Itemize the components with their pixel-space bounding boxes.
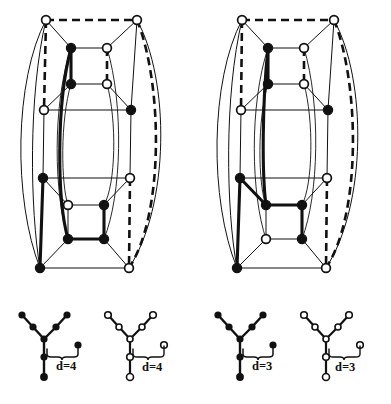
node-open bbox=[103, 44, 112, 53]
right-graph-nodes bbox=[232, 16, 338, 273]
node-dark bbox=[214, 311, 221, 318]
node-dark bbox=[66, 79, 75, 88]
left-graph-nodes bbox=[35, 16, 141, 273]
node-dark bbox=[259, 311, 266, 318]
node-open bbox=[323, 374, 330, 381]
tree-dark-d3-label: d=3 bbox=[252, 359, 272, 373]
tree-dark-d3: d=3 bbox=[214, 311, 276, 381]
node-open bbox=[300, 44, 309, 53]
node-dark bbox=[235, 173, 244, 182]
node-dark bbox=[40, 373, 48, 381]
node-open bbox=[133, 16, 142, 25]
node-dark bbox=[18, 311, 25, 318]
node-dark bbox=[225, 323, 232, 330]
node-dark bbox=[99, 234, 108, 243]
node-open bbox=[125, 264, 134, 273]
node-open bbox=[116, 324, 122, 330]
right-polyhedral-graph bbox=[217, 16, 358, 273]
node-open bbox=[237, 106, 246, 115]
tree-open-d4-brace bbox=[133, 346, 164, 360]
node-open bbox=[323, 336, 329, 342]
node-open bbox=[127, 374, 134, 381]
node-dark bbox=[248, 323, 255, 330]
node-open bbox=[40, 106, 49, 115]
tree-open-d3-brace bbox=[329, 346, 360, 360]
node-dark bbox=[52, 323, 59, 330]
node-dark bbox=[261, 200, 270, 209]
node-dark bbox=[63, 234, 72, 243]
tree-open-d4: d=4 bbox=[105, 312, 168, 381]
node-open bbox=[238, 16, 247, 25]
node-dark bbox=[40, 335, 47, 342]
node-dark bbox=[99, 200, 108, 209]
node-open bbox=[346, 312, 353, 319]
tree-open-d4-label: d=4 bbox=[142, 360, 163, 374]
node-open bbox=[103, 80, 112, 89]
node-dark bbox=[263, 79, 272, 88]
node-dark bbox=[236, 335, 243, 342]
figure-root: d=4 d=4 bbox=[0, 0, 391, 404]
node-dark bbox=[38, 173, 47, 182]
tree-dark-d4-brace bbox=[47, 346, 78, 360]
tree-dark-d4-label: d=4 bbox=[56, 359, 77, 373]
node-open bbox=[262, 235, 271, 244]
right-dashed-edges bbox=[241, 20, 353, 268]
node-dark bbox=[297, 200, 306, 209]
node-open bbox=[150, 312, 157, 319]
node-dark bbox=[236, 373, 244, 381]
node-open bbox=[323, 354, 330, 361]
node-open bbox=[300, 80, 309, 89]
node-dark bbox=[35, 263, 44, 272]
node-open bbox=[322, 264, 331, 273]
node-open bbox=[126, 174, 135, 183]
node-open bbox=[127, 354, 134, 361]
node-open bbox=[335, 324, 341, 330]
node-open bbox=[105, 312, 112, 319]
tree-open-d3-label: d=3 bbox=[335, 360, 355, 374]
tree-open-d3: d=3 bbox=[301, 312, 364, 381]
node-open bbox=[301, 312, 308, 319]
tree-dark-d4: d=4 bbox=[18, 311, 81, 381]
node-dark bbox=[29, 323, 36, 330]
node-dark bbox=[263, 43, 272, 52]
tree-dark-d3-brace bbox=[243, 346, 273, 360]
left-thin-edges bbox=[32, 20, 137, 268]
node-open bbox=[127, 336, 133, 342]
node-open bbox=[330, 16, 339, 25]
node-dark bbox=[126, 105, 135, 114]
node-dark bbox=[297, 234, 306, 243]
node-dark bbox=[232, 263, 241, 272]
node-open bbox=[42, 16, 51, 25]
node-dark bbox=[63, 311, 70, 318]
node-open bbox=[64, 201, 73, 210]
figure-svg: d=4 d=4 bbox=[0, 0, 391, 404]
node-open bbox=[323, 174, 332, 183]
right-thin-edges bbox=[229, 20, 334, 268]
node-open bbox=[312, 324, 318, 330]
node-dark bbox=[323, 105, 332, 114]
node-open bbox=[139, 324, 145, 330]
node-dark bbox=[66, 43, 75, 52]
left-polyhedral-graph bbox=[21, 16, 161, 273]
